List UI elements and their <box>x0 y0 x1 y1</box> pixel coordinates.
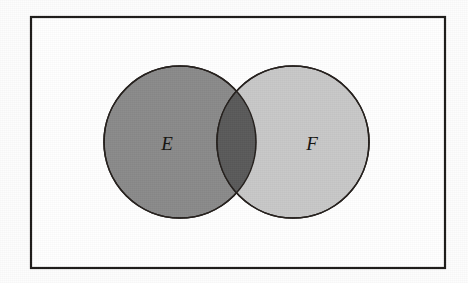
venn-diagram-figure: E F <box>0 0 468 283</box>
set-label-e: E <box>160 133 173 154</box>
venn-diagram-canvas: E F <box>0 0 468 283</box>
set-label-f: F <box>305 133 318 154</box>
